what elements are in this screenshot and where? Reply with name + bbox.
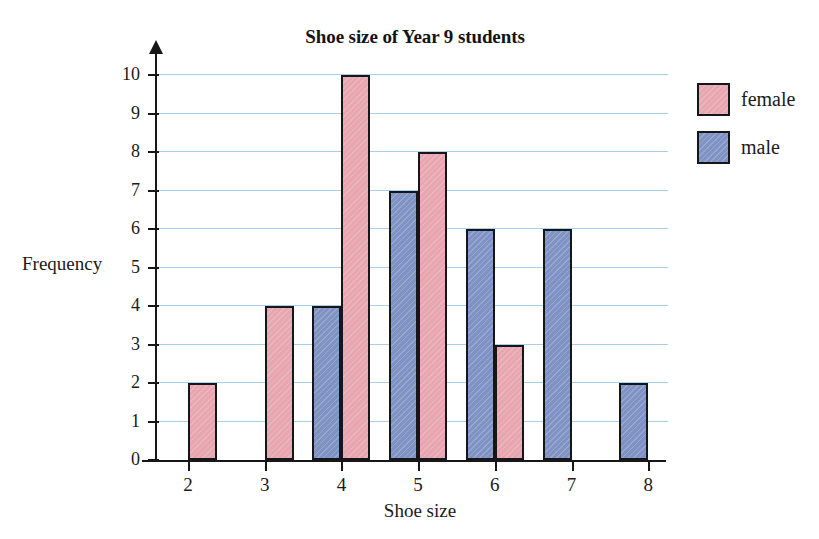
legend-label: female (741, 88, 795, 110)
y-axis-tick (148, 113, 159, 115)
x-axis-tick-label: 6 (475, 474, 515, 496)
x-axis-tick (648, 460, 650, 471)
y-axis-tick (148, 74, 159, 76)
y-axis-tick-label: 10 (108, 65, 140, 83)
y-axis-tick (148, 344, 159, 346)
y-axis-tick (148, 459, 159, 461)
x-axis-tick-label: 4 (321, 474, 361, 496)
bar-female-3 (265, 306, 294, 460)
gridline (156, 113, 668, 114)
y-axis-tick-label: 3 (108, 335, 140, 353)
gridline (156, 151, 668, 152)
gridline (156, 74, 668, 75)
x-axis-tick (572, 460, 574, 471)
legend-label: male (741, 136, 780, 158)
x-axis-tick-label: 3 (245, 474, 285, 496)
y-axis-arrow-icon (149, 40, 163, 54)
bar-female-2 (188, 383, 217, 460)
x-axis-line (142, 460, 666, 462)
female-swatch (697, 83, 730, 116)
bar-female-4 (341, 75, 370, 460)
x-axis-tick-label: 7 (552, 474, 592, 496)
bar-male-4 (312, 306, 341, 460)
x-axis-tick (265, 460, 267, 471)
legend-item-female: female (697, 82, 795, 116)
bar-female-6 (495, 345, 524, 461)
y-axis-tick (148, 382, 159, 384)
y-axis-tick-label: 8 (108, 142, 140, 160)
y-axis-tick (148, 421, 159, 423)
bar-female-5 (418, 152, 447, 460)
chart-title: Shoe size of Year 9 students (180, 26, 650, 48)
y-axis-tick-label: 1 (108, 412, 140, 430)
y-axis-tick (148, 151, 159, 153)
bar-male-6 (466, 229, 495, 460)
x-axis-tick-label: 5 (398, 474, 438, 496)
bar-male-5 (389, 191, 418, 461)
y-axis-tick (148, 228, 159, 230)
x-axis-tick (495, 460, 497, 471)
y-axis-tick-label: 6 (108, 219, 140, 237)
x-axis-tick (418, 460, 420, 471)
y-axis-tick-label: 9 (108, 104, 140, 122)
y-axis-tick-label: 7 (108, 181, 140, 199)
y-axis-tick-label: 5 (108, 258, 140, 276)
y-axis-tick (148, 190, 159, 192)
bar-male-8 (619, 383, 648, 460)
y-axis-tick (148, 305, 159, 307)
chart-legend: femalemale (697, 82, 795, 178)
x-axis-tick (341, 460, 343, 471)
y-axis-tick (148, 267, 159, 269)
x-axis-tick-label: 2 (168, 474, 208, 496)
y-axis-tick-label: 2 (108, 373, 140, 391)
y-axis-title: Frequency (22, 254, 102, 274)
bar-chart: Shoe size of Year 9 students 10987654321… (0, 0, 819, 539)
x-axis-tick (188, 460, 190, 471)
y-axis-tick-label: 4 (108, 296, 140, 314)
x-axis-tick-label: 8 (628, 474, 668, 496)
male-swatch (697, 131, 730, 164)
x-axis-title: Shoe size (300, 500, 540, 522)
legend-item-male: male (697, 130, 795, 164)
y-axis-tick-label: 0 (108, 450, 140, 468)
bar-male-7 (543, 229, 572, 460)
